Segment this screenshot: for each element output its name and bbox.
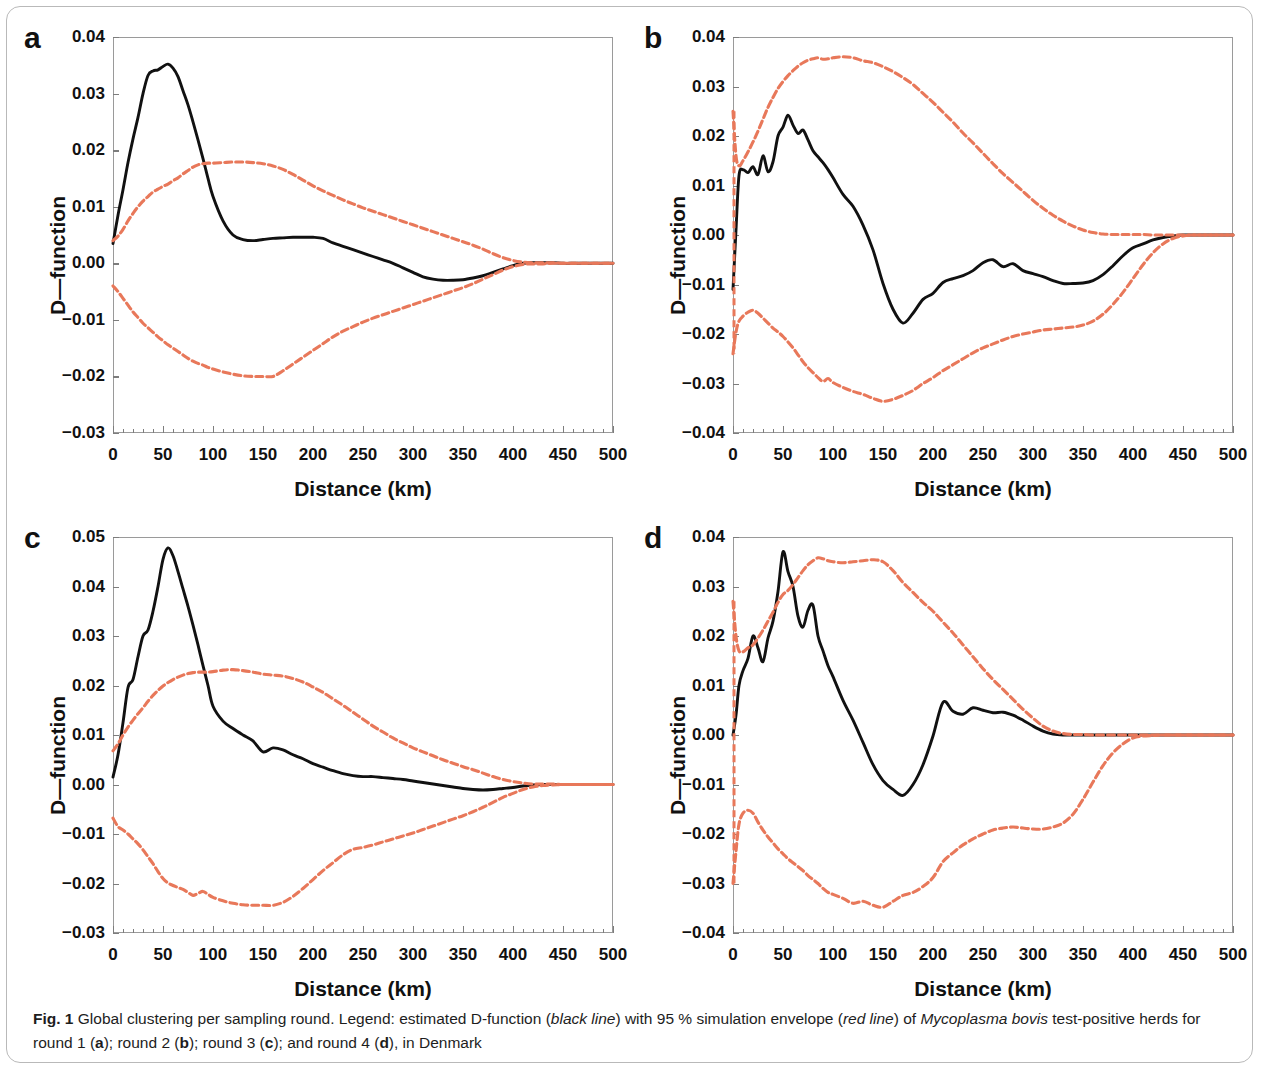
- plot-area-a: [113, 37, 613, 433]
- plot-area-c: [113, 537, 613, 933]
- x-tick-label-d-5: 250: [969, 945, 997, 965]
- x-tick-label-b-7: 350: [1069, 445, 1097, 465]
- x-axis-label-d: Distance (km): [733, 977, 1233, 1001]
- y-tick-mark-d-0: [733, 933, 739, 934]
- figure-caption: Fig. 1 Global clustering per sampling ro…: [33, 1007, 1228, 1054]
- y-tick-label-d-0: −0.04: [632, 923, 725, 943]
- x-tick-mark-c-500: [613, 926, 614, 933]
- y-tick-label-c-7: 0.04: [12, 577, 105, 597]
- x-tick-label-a-0: 0: [108, 445, 117, 465]
- y-tick-label-a-6: 0.03: [12, 84, 105, 104]
- y-axis-label-a: D—function: [46, 196, 70, 315]
- caption-part-3: ) with 95 % simulation envelope (: [615, 1010, 842, 1027]
- x-tick-label-c-3: 150: [249, 945, 277, 965]
- y-tick-label-c-2: −0.01: [12, 824, 105, 844]
- y-tick-label-a-0: −0.03: [12, 423, 105, 443]
- x-tick-label-a-2: 100: [199, 445, 227, 465]
- caption-part-4: red line: [843, 1010, 894, 1027]
- y-axis-label-b: D—function: [666, 196, 690, 315]
- x-axis-label-c: Distance (km): [113, 977, 613, 1001]
- x-tick-label-a-1: 50: [154, 445, 173, 465]
- x-tick-label-d-6: 300: [1019, 945, 1047, 965]
- curves-a: [113, 37, 613, 433]
- plot-area-b: [733, 37, 1233, 433]
- x-tick-label-a-6: 300: [399, 445, 427, 465]
- figure-card: a−0.03−0.02−0.010.000.010.020.030.040501…: [6, 6, 1253, 1063]
- y-tick-label-d-8: 0.04: [632, 527, 725, 547]
- series-c-2: [113, 784, 613, 905]
- panel-a: a−0.03−0.02−0.010.000.010.020.030.040501…: [12, 13, 633, 523]
- x-tick-label-b-8: 400: [1119, 445, 1147, 465]
- y-tick-mark-c-0: [113, 933, 119, 934]
- curves-c: [113, 537, 613, 933]
- plot-area-d: [733, 537, 1233, 933]
- x-tick-label-d-0: 0: [728, 945, 737, 965]
- x-tick-label-c-6: 300: [399, 945, 427, 965]
- caption-part-15: ), in Denmark: [389, 1034, 482, 1051]
- y-axis-label-d: D—function: [666, 696, 690, 815]
- y-tick-label-d-2: −0.02: [632, 824, 725, 844]
- x-tick-label-a-4: 200: [299, 445, 327, 465]
- series-c-1: [113, 670, 613, 785]
- x-tick-label-d-2: 100: [819, 945, 847, 965]
- y-tick-label-c-1: −0.02: [12, 874, 105, 894]
- x-tick-label-a-7: 350: [449, 445, 477, 465]
- panel-b: b−0.04−0.03−0.02−0.010.000.010.020.030.0…: [632, 13, 1253, 523]
- x-tick-label-b-9: 450: [1169, 445, 1197, 465]
- series-b-0: [733, 115, 1233, 323]
- x-tick-label-c-0: 0: [108, 945, 117, 965]
- y-tick-mark-a-0: [113, 433, 119, 434]
- x-tick-label-c-7: 350: [449, 945, 477, 965]
- x-tick-label-c-4: 200: [299, 945, 327, 965]
- y-tick-label-b-6: 0.02: [632, 126, 725, 146]
- y-tick-label-b-8: 0.04: [632, 27, 725, 47]
- caption-part-0: Fig. 1: [33, 1010, 73, 1027]
- y-tick-label-b-7: 0.03: [632, 77, 725, 97]
- caption-part-11: ); round 3 (: [189, 1034, 265, 1051]
- y-tick-label-d-7: 0.03: [632, 577, 725, 597]
- x-tick-label-a-8: 400: [499, 445, 527, 465]
- x-tick-label-b-1: 50: [774, 445, 793, 465]
- y-tick-label-c-6: 0.03: [12, 626, 105, 646]
- y-tick-label-a-1: −0.02: [12, 366, 105, 386]
- caption-part-10: b: [179, 1034, 188, 1051]
- y-axis-label-c: D—function: [46, 696, 70, 815]
- x-tick-mark-b-500: [1233, 426, 1234, 433]
- series-d-0: [733, 551, 1233, 795]
- caption-part-1: Global clustering per sampling round. Le…: [73, 1010, 550, 1027]
- y-tick-label-b-2: −0.02: [632, 324, 725, 344]
- x-tick-label-d-10: 500: [1219, 945, 1247, 965]
- x-tick-label-b-5: 250: [969, 445, 997, 465]
- x-tick-label-a-5: 250: [349, 445, 377, 465]
- x-tick-label-a-9: 450: [549, 445, 577, 465]
- panel-d: d−0.04−0.03−0.02−0.010.000.010.020.030.0…: [632, 513, 1253, 1023]
- x-tick-label-c-1: 50: [154, 945, 173, 965]
- x-tick-label-c-10: 500: [599, 945, 627, 965]
- x-tick-label-d-7: 350: [1069, 945, 1097, 965]
- caption-part-5: ) of: [894, 1010, 921, 1027]
- x-tick-label-a-3: 150: [249, 445, 277, 465]
- x-tick-mark-d-500: [1233, 926, 1234, 933]
- y-tick-mark-b-0: [733, 433, 739, 434]
- curves-d: [733, 537, 1233, 933]
- x-tick-label-d-8: 400: [1119, 945, 1147, 965]
- x-tick-label-d-4: 200: [919, 945, 947, 965]
- series-a-2: [113, 263, 613, 377]
- x-tick-mark-a-500: [613, 426, 614, 433]
- x-tick-label-a-10: 500: [599, 445, 627, 465]
- y-tick-label-d-6: 0.02: [632, 626, 725, 646]
- x-tick-label-b-0: 0: [728, 445, 737, 465]
- y-tick-label-c-5: 0.02: [12, 676, 105, 696]
- y-tick-label-a-5: 0.02: [12, 140, 105, 160]
- y-tick-label-d-5: 0.01: [632, 676, 725, 696]
- x-axis-label-b: Distance (km): [733, 477, 1233, 501]
- caption-part-2: black line: [551, 1010, 616, 1027]
- x-tick-label-d-9: 450: [1169, 945, 1197, 965]
- y-tick-label-d-1: −0.03: [632, 874, 725, 894]
- x-tick-label-c-9: 450: [549, 945, 577, 965]
- y-tick-label-b-5: 0.01: [632, 176, 725, 196]
- series-b-2: [733, 235, 1233, 401]
- curves-b: [733, 37, 1233, 433]
- x-tick-label-d-3: 150: [869, 945, 897, 965]
- series-c-0: [113, 548, 613, 790]
